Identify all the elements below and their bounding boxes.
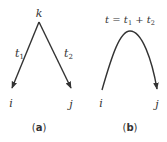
node-i-label-b: i	[99, 97, 103, 110]
formula-label: t = t1 + t2	[105, 14, 155, 27]
node-j-label-b: j	[152, 98, 159, 111]
edge-label-t2: t2	[64, 47, 73, 61]
panel-a: k t1 t2 i j (a)	[9, 7, 73, 133]
caption-b: (b)	[123, 122, 138, 133]
node-k-label: k	[36, 7, 43, 20]
node-j-label: j	[66, 98, 73, 111]
caption-a: (a)	[32, 122, 47, 133]
edge-label-t1: t1	[15, 47, 24, 61]
combined-edge-i-to-j	[102, 31, 157, 90]
panel-b: t = t1 + t2 i j (b)	[99, 14, 159, 133]
node-i-label: i	[9, 97, 13, 110]
diagram-canvas: k t1 t2 i j (a) t = t1 + t2 i j (b)	[0, 0, 167, 142]
